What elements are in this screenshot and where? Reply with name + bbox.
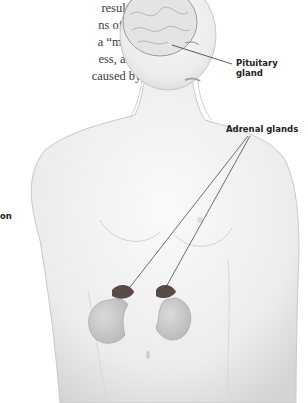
adrenal-glands-label: Adrenal glands	[226, 124, 298, 134]
label-line: gland	[236, 68, 278, 78]
cutoff-label: on	[0, 211, 12, 221]
label-line: Pituitary	[236, 58, 278, 68]
pituitary-gland-label: Pituitary gland	[236, 58, 278, 78]
left-kidney	[156, 298, 191, 340]
